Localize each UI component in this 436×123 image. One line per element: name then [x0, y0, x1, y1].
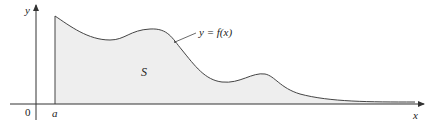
region-s-fill [55, 16, 415, 104]
curve-label-pointer [175, 33, 196, 42]
curve-label: y = f(x) [198, 26, 232, 39]
origin-label: 0 [25, 106, 31, 118]
region-s-label: S [141, 65, 147, 79]
point-a-label: a [52, 107, 58, 119]
y-axis-label: y [24, 4, 30, 16]
improper-integral-diagram: y x 0 a S y = f(x) [0, 0, 436, 123]
curve-label-pointer-dot [174, 41, 176, 43]
x-axis-label: x [412, 109, 418, 121]
